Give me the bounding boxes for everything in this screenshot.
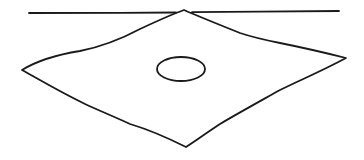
- quadrilateral-shape: [22, 10, 346, 147]
- center-ellipse: [157, 57, 205, 81]
- sketch-svg: [0, 0, 364, 160]
- horizontal-line: [29, 11, 339, 13]
- line-drawing-canvas: [0, 0, 364, 160]
